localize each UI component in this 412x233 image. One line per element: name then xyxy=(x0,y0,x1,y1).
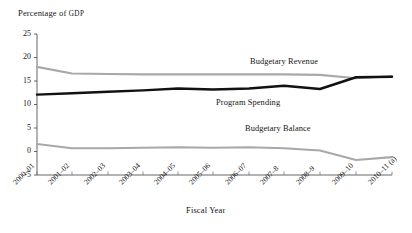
chart-plot-area xyxy=(0,0,412,233)
series-line-budgetary-balance xyxy=(37,144,392,160)
series-label-budgetary-balance: Budgetary Balance xyxy=(245,124,311,133)
chart-container: Percentage of GDP Fiscal Year 2520151050… xyxy=(0,0,412,233)
y-axis-tick-label: 25 xyxy=(15,29,31,38)
y-axis-tick-label: 10 xyxy=(15,99,31,108)
series-line-program-spending xyxy=(37,67,392,78)
y-axis-tick-label: 20 xyxy=(15,52,31,61)
series-label-program-spending: Program Spending xyxy=(216,98,280,107)
y-axis-tick-label: 15 xyxy=(15,76,31,85)
y-axis-tick-label: 0 xyxy=(15,146,31,155)
y-axis-tick-label: 5 xyxy=(15,123,31,132)
series-label-budgetary-revenue: Budgetary Revenue xyxy=(250,57,318,66)
series-line-budgetary-revenue xyxy=(37,77,392,95)
